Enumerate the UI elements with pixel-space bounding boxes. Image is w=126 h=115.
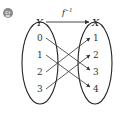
codomain-element-4: 4 — [93, 84, 99, 94]
function-label: f−1 — [61, 7, 72, 17]
inverse-function-diagram: 답 Y X f−1 0 1 2 3 1 2 3 4 — [0, 0, 126, 115]
codomain-element-1: 1 — [93, 33, 99, 43]
domain-element-1: 1 — [37, 50, 43, 60]
codomain-element-2: 2 — [93, 50, 99, 60]
domain-element-3: 3 — [37, 84, 43, 94]
answer-badge-label: 답 — [5, 10, 11, 17]
domain-element-0: 0 — [37, 33, 43, 43]
codomain-element-3: 3 — [93, 67, 99, 77]
codomain-set-name: X — [91, 17, 100, 28]
answer-badge: 답 — [3, 8, 13, 18]
domain-element-2: 2 — [37, 67, 43, 77]
